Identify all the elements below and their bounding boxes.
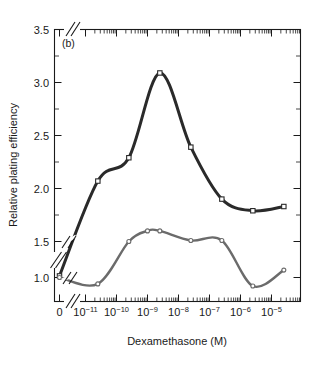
data-point-lower-curve-3 (146, 229, 150, 233)
y-tick-label-6: 3.5 (34, 24, 49, 36)
x-axis-group: 0 10−11 10−10 10−9 10−8 (56, 30, 299, 319)
data-series-layer (57, 71, 286, 288)
x-tick-label-4: 10−8 (168, 305, 189, 318)
x-tick-label-zero: 0 (56, 306, 62, 318)
y-tick-label-3: 2.0 (34, 183, 49, 195)
x-exponent-1: −11 (86, 305, 98, 314)
x-mantissa-6: 10 (230, 306, 242, 318)
svg-text:10−7: 10−7 (199, 305, 220, 318)
x-exponent-6: −6 (242, 305, 251, 314)
data-point-lower-curve-6 (220, 238, 224, 242)
x-tick-label-3: 10−9 (137, 305, 158, 318)
data-point-upper-curve-6 (251, 209, 255, 213)
y-axis-group: 1.0 1.5 2.0 2.5 3.0 3.5 (34, 24, 301, 284)
x-mantissa-1: 10 (73, 306, 85, 318)
x-axis-title: Dexamethasone (M) (127, 335, 227, 347)
svg-text:10−5: 10−5 (261, 305, 282, 318)
x-exponent-2: −10 (116, 305, 129, 314)
x-mantissa-5: 10 (199, 306, 211, 318)
svg-text:10−10: 10−10 (104, 305, 129, 318)
series-lower-curve (58, 229, 286, 288)
x-exponent-4: −8 (180, 305, 189, 314)
data-point-lower-curve-8 (282, 268, 286, 272)
svg-text:10−6: 10−6 (230, 305, 251, 318)
data-point-lower-curve-5 (189, 238, 193, 242)
x-exponent-7: −5 (273, 305, 282, 314)
svg-text:10−8: 10−8 (168, 305, 189, 318)
x-mantissa-2: 10 (104, 306, 116, 318)
x-tick-label-6: 10−6 (230, 305, 251, 318)
plot-svg: 1.0 1.5 2.0 2.5 3.0 3.5 (0, 0, 313, 366)
x-tick-label-5: 10−7 (199, 305, 220, 318)
data-point-lower-curve-2 (127, 240, 131, 244)
y-tick-label-1: 1.0 (34, 272, 49, 284)
data-point-upper-curve-2 (127, 156, 131, 160)
data-point-lower-curve-7 (251, 284, 255, 288)
y-tick-label-2: 1.5 (34, 236, 49, 248)
svg-text:10−9: 10−9 (137, 305, 158, 318)
x-tick-label-7: 10−5 (261, 305, 282, 318)
series-upper-curve (57, 71, 286, 278)
figure-panel-b: 1.0 1.5 2.0 2.5 3.0 3.5 (0, 0, 313, 366)
plot-frame (55, 30, 301, 302)
x-tick-label-1: 10−11 (73, 305, 97, 318)
x-exponent-5: −7 (211, 305, 220, 314)
y-axis-major-ticks (55, 30, 62, 278)
data-point-lower-curve-0 (58, 276, 62, 280)
svg-text:10−11: 10−11 (73, 305, 97, 318)
x-tick-label-2: 10−10 (104, 305, 129, 318)
data-point-upper-curve-4 (189, 145, 193, 149)
curve-break-mark-upper (62, 236, 76, 248)
x-mantissa-7: 10 (261, 306, 273, 318)
data-point-upper-curve-5 (220, 197, 224, 201)
y-tick-label-5: 3.0 (34, 77, 49, 89)
x-exponent-3: −9 (149, 305, 158, 314)
x-axis-break-mark-top (64, 22, 80, 36)
curve-line-upper-curve (60, 73, 284, 276)
x-axis-minor-ticks-top (95, 30, 300, 34)
data-point-lower-curve-1 (96, 282, 100, 286)
y-axis-title: Relative plating efficiency (7, 103, 19, 227)
curve-line-lower-curve (60, 230, 284, 287)
data-point-lower-curve-4 (158, 229, 162, 233)
y-axis-right-ticks (294, 30, 301, 278)
x-axis-minor-ticks (95, 298, 300, 302)
data-point-upper-curve-1 (96, 179, 100, 183)
data-point-upper-curve-7 (282, 204, 286, 208)
data-point-upper-curve-3 (158, 71, 162, 75)
x-mantissa-4: 10 (168, 306, 180, 318)
y-tick-label-4: 2.5 (34, 130, 49, 142)
x-mantissa-3: 10 (137, 306, 149, 318)
panel-label: (b) (62, 37, 75, 49)
